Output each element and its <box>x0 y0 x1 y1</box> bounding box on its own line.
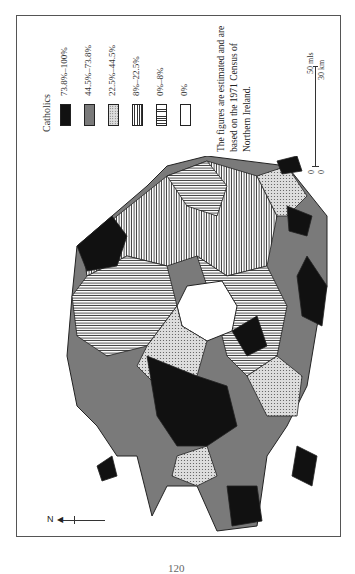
legend-title: Catholics <box>41 94 52 132</box>
legend-label-44-73: 44.5%–73.8% <box>83 45 93 96</box>
legend-swatch-44-73 <box>84 104 95 126</box>
note-line-1: The figures are estimated and are <box>215 26 228 152</box>
north-label: N <box>47 514 54 524</box>
scale-km-label: 30 km <box>317 60 326 80</box>
note-line-3: Northern Ireland. <box>241 86 254 152</box>
page-number: 120 <box>168 562 185 574</box>
north-arrow-tick <box>74 516 75 524</box>
legend-swatch-0-8 <box>156 104 167 126</box>
legend-label-22-44: 22.5%–44.5% <box>107 45 117 96</box>
note-line-2: based on the 1971 Census of <box>228 43 241 152</box>
map-frame: Catholics 73.8%–100% 44.5%–73.8% 22.5%–4… <box>16 15 341 537</box>
scale-miles-label: 50 mls <box>306 52 315 74</box>
legend-swatch-73-100 <box>60 104 71 126</box>
north-arrow-shaft <box>63 520 105 521</box>
north-arrow: N ◀ <box>47 514 107 528</box>
legend-label-8-22: 8%–22.5% <box>131 56 141 96</box>
legend-swatch-0 <box>180 104 191 126</box>
legend-label-73-100: 73.8%–100% <box>59 47 69 96</box>
choropleth-map <box>57 156 337 536</box>
legend-swatch-8-22 <box>132 104 143 126</box>
legend-label-0: 0% <box>179 84 189 96</box>
legend-label-0-8: 0%–8% <box>155 68 165 97</box>
scale-bar-line <box>315 66 316 166</box>
legend-swatch-22-44 <box>108 104 119 126</box>
